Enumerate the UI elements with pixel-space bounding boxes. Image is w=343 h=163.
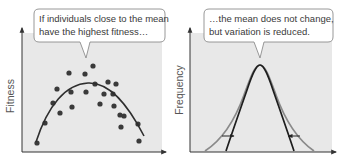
- frequency-callout-line2: but variation is reduced.: [209, 26, 310, 37]
- stabilizing-selection-figure: Fitness: [0, 0, 343, 163]
- frequency-callout-line1: …the mean does not change,: [209, 13, 334, 24]
- data-point: [118, 124, 123, 129]
- fitness-axis-label: Fitness: [4, 79, 16, 113]
- frequency-panel: Frequency …the mean does not change, but…: [173, 9, 336, 152]
- data-point: [101, 91, 106, 96]
- data-point: [136, 138, 141, 143]
- fitness-panel: Fitness: [4, 9, 169, 152]
- data-point: [105, 79, 110, 84]
- data-point: [57, 110, 62, 115]
- data-point: [111, 103, 116, 108]
- data-point: [66, 70, 71, 75]
- data-point: [69, 104, 74, 109]
- data-point: [83, 89, 88, 94]
- data-point: [54, 86, 59, 91]
- fitness-plot-area: [22, 33, 162, 152]
- data-point: [82, 71, 87, 76]
- data-point: [121, 113, 126, 118]
- data-point: [90, 63, 95, 68]
- fitness-callout-line2: have the highest fitness…: [39, 26, 148, 37]
- data-point: [97, 101, 102, 106]
- fitness-callout-line1: If individuals close to the mean: [39, 13, 169, 24]
- frequency-axis-label: Frequency: [173, 64, 185, 114]
- data-point: [113, 81, 118, 86]
